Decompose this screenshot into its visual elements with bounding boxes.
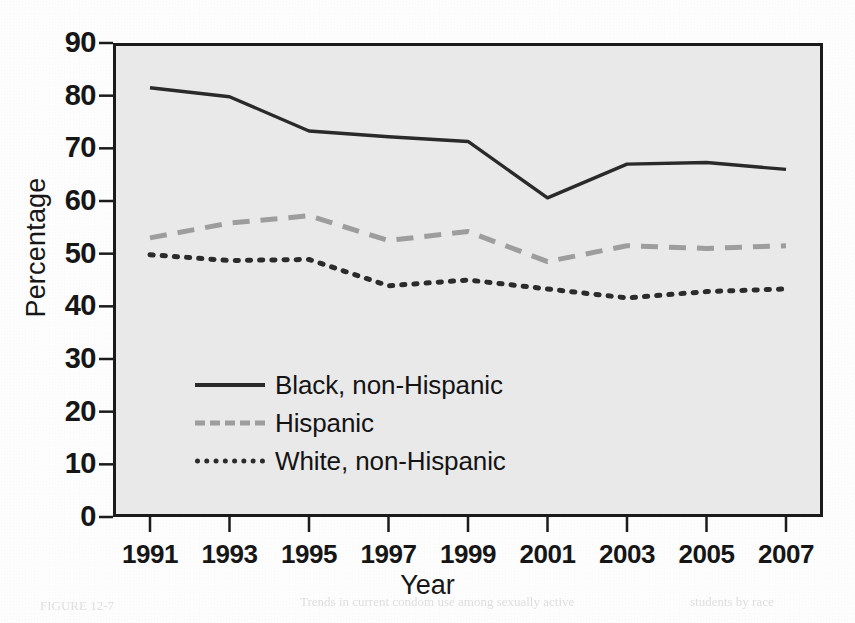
x-axis-tick-label: 1997 [344, 541, 434, 567]
legend-label: Hispanic [275, 408, 374, 439]
page-bleed-through: Trends in current condom use among sexua… [300, 594, 574, 610]
y-axis-ticks [99, 43, 113, 517]
legend-line-dashed-icon [195, 417, 265, 429]
x-axis-tick-label: 2001 [503, 541, 593, 567]
legend-line-solid-icon [195, 379, 265, 391]
legend-item-white-non-hispanic: White, non-Hispanic [195, 442, 525, 480]
legend-item-hispanic: Hispanic [195, 404, 525, 442]
y-axis-tick-label: 90 [10, 28, 96, 57]
chart-legend: Black, non-Hispanic Hispanic White, non-… [195, 366, 525, 480]
legend-line-dotted-icon [195, 455, 265, 467]
page-bleed-through: FIGURE 12-7 [40, 598, 114, 614]
legend-label: Black, non-Hispanic [275, 370, 503, 401]
y-axis-tick-label: 20 [10, 397, 96, 426]
legend-item-black-non-hispanic: Black, non-Hispanic [195, 366, 525, 404]
y-axis-tick-label: 10 [10, 449, 96, 478]
y-axis-tick-label: 0 [10, 502, 96, 531]
x-axis-ticks [150, 517, 786, 532]
x-axis-tick-label: 1999 [423, 541, 513, 567]
x-axis-tick-label: 1995 [264, 541, 354, 567]
x-axis-tick-label: 2003 [582, 541, 672, 567]
figure-chart: 9080706050403020100 19911993199519971999… [0, 0, 855, 623]
y-axis-title: Percentage [21, 118, 52, 378]
x-axis-tick-label: 2007 [741, 541, 831, 567]
x-axis-tick-label: 1991 [105, 541, 195, 567]
legend-label: White, non-Hispanic [275, 446, 506, 477]
x-axis-tick-label: 1993 [185, 541, 275, 567]
y-axis-tick-label: 80 [10, 81, 96, 110]
x-axis-tick-label: 2005 [662, 541, 752, 567]
page-bleed-through: students by race [690, 594, 774, 610]
